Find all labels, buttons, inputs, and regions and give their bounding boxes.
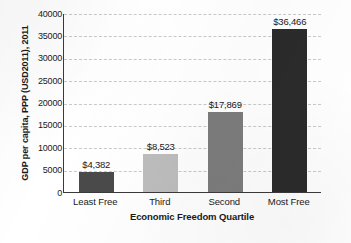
bar-chart-figure: GDP per capita, PPP (USD2011), 2011 0500… bbox=[0, 0, 351, 243]
bar-value-label: $4,382 bbox=[82, 160, 110, 170]
y-tick-label: 5000 bbox=[10, 166, 62, 175]
y-tick-label: 10000 bbox=[10, 144, 62, 153]
y-axis-tick-labels: 0500010000150002000025000300003500040000 bbox=[8, 0, 62, 243]
y-tick-label: 0 bbox=[10, 189, 62, 198]
bar-slot: $36,466 bbox=[272, 14, 307, 192]
x-tick-label: Most Free bbox=[257, 196, 322, 207]
x-axis-title: Economic Freedom Quartile bbox=[63, 211, 321, 222]
bar-slot: $8,523 bbox=[143, 14, 178, 192]
bar[interactable] bbox=[79, 172, 114, 192]
bar[interactable] bbox=[208, 112, 243, 192]
bar-slot: $4,382 bbox=[79, 14, 114, 192]
bar-value-label: $8,523 bbox=[147, 142, 175, 152]
y-tick-label: 35000 bbox=[10, 32, 62, 41]
bar-slot: $17,869 bbox=[208, 14, 243, 192]
x-tick-label: Second bbox=[192, 196, 257, 207]
y-tick-label: 25000 bbox=[10, 77, 62, 86]
x-tick-label: Third bbox=[128, 196, 193, 207]
x-axis-tick-labels: Least FreeThirdSecondMost Free bbox=[63, 196, 321, 210]
y-tick-label: 30000 bbox=[10, 54, 62, 63]
bar[interactable] bbox=[143, 154, 178, 192]
y-tick-label: 20000 bbox=[10, 99, 62, 108]
bar-series: $4,382$8,523$17,869$36,466 bbox=[64, 14, 321, 192]
bar[interactable] bbox=[272, 29, 307, 192]
y-tick-label: 15000 bbox=[10, 121, 62, 130]
plot-area: $4,382$8,523$17,869$36,466 bbox=[63, 14, 321, 193]
x-tick-label: Least Free bbox=[63, 196, 128, 207]
bar-value-label: $17,869 bbox=[209, 100, 242, 110]
bar-value-label: $36,466 bbox=[273, 17, 306, 27]
y-tick-label: 40000 bbox=[10, 10, 62, 19]
